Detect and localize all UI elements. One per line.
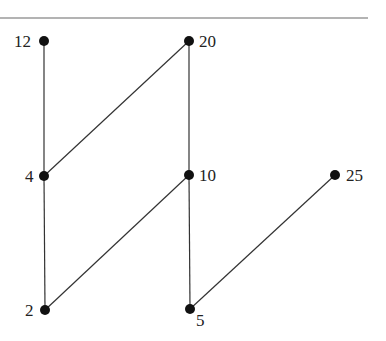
node-label-4: 4: [25, 167, 34, 186]
node-25: [330, 170, 340, 180]
node-label-25: 25: [346, 166, 363, 185]
node-10: [184, 170, 194, 180]
edge-20-4: [44, 41, 189, 176]
edge-25-5: [190, 175, 335, 309]
node-label-5: 5: [196, 311, 205, 330]
node-5: [185, 304, 195, 314]
edge-4-2: [44, 176, 45, 310]
edge-10-5: [189, 175, 190, 309]
hasse-diagram: 12204102525: [0, 0, 386, 341]
node-label-20: 20: [199, 32, 216, 51]
node-label-10: 10: [199, 166, 216, 185]
node-label-12: 12: [14, 32, 31, 51]
edge-10-2: [45, 175, 189, 310]
node-2: [40, 305, 50, 315]
node-20: [184, 36, 194, 46]
node-label-2: 2: [25, 301, 34, 320]
node-4: [39, 171, 49, 181]
node-12: [39, 36, 49, 46]
